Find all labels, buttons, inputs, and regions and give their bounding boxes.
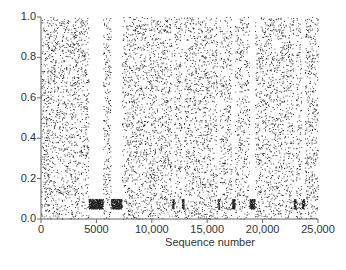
y-ticks — [37, 17, 41, 219]
y-tick-label: 0.4 — [6, 131, 36, 143]
x-tick-label: 5000 — [71, 223, 121, 235]
x-tick-label: 15,000 — [182, 223, 232, 235]
y-tick-label: 0.2 — [6, 172, 36, 184]
x-axis-title: Sequence number — [140, 236, 280, 248]
x-tick-label: 0 — [16, 223, 66, 235]
y-tick-label: 0.8 — [6, 50, 36, 62]
x-tick-label: 25,000 — [293, 223, 343, 235]
y-tick-label: 1.0 — [6, 10, 36, 22]
y-tick-label: 0.6 — [6, 91, 36, 103]
data-points — [41, 17, 319, 220]
x-tick-label: 10,000 — [127, 223, 177, 235]
x-tick-label: 20,000 — [238, 223, 288, 235]
point-cloud — [41, 17, 319, 220]
